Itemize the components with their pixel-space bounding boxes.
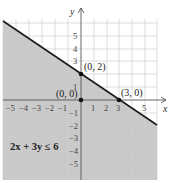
svg-text:−4: −4 bbox=[69, 146, 79, 156]
svg-text:5: 5 bbox=[142, 103, 146, 113]
svg-text:−4: −4 bbox=[19, 103, 29, 113]
svg-text:−3: −3 bbox=[69, 133, 78, 143]
inequality-graph: y x (0, 2) (0, 0) (3, 0) −5 −4 −3 −2 −1 … bbox=[0, 0, 173, 183]
svg-text:1: 1 bbox=[73, 82, 77, 92]
svg-text:−5: −5 bbox=[6, 103, 15, 113]
point-0-2 bbox=[79, 72, 84, 77]
svg-text:3: 3 bbox=[73, 56, 77, 66]
label-point-0-2: (0, 2) bbox=[84, 61, 106, 73]
svg-text:2: 2 bbox=[104, 103, 108, 113]
label-point-3-0: (3, 0) bbox=[121, 87, 143, 99]
svg-text:1: 1 bbox=[91, 103, 95, 113]
svg-text:−3: −3 bbox=[32, 103, 41, 113]
svg-text:−2: −2 bbox=[45, 103, 54, 113]
inequality-label: 2x + 3y ≤ 6 bbox=[10, 141, 59, 152]
svg-text:3: 3 bbox=[116, 103, 120, 113]
svg-text:−1: −1 bbox=[58, 103, 67, 113]
svg-text:−2: −2 bbox=[69, 121, 78, 131]
svg-text:5: 5 bbox=[73, 31, 77, 41]
svg-text:−1: −1 bbox=[69, 108, 78, 118]
x-axis-label: x bbox=[162, 103, 168, 114]
y-axis-label: y bbox=[69, 6, 75, 17]
point-0-0 bbox=[79, 98, 84, 103]
svg-text:−5: −5 bbox=[69, 159, 78, 169]
point-3-0 bbox=[117, 98, 122, 103]
